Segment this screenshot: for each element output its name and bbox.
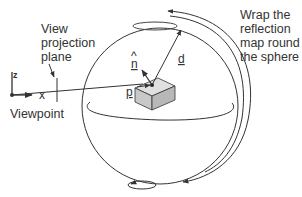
- x-axis-label: x: [39, 88, 45, 102]
- wrap-label-3: map round: [240, 36, 300, 50]
- viewpoint-label: Viewpoint: [10, 107, 65, 121]
- wrap-label-4: the sphere: [240, 50, 299, 64]
- view-ray: [12, 84, 143, 95]
- reflection-vector: [152, 30, 181, 85]
- direction-label: d: [178, 52, 185, 66]
- view-plane-pointer: [49, 64, 54, 77]
- wrap-label-1: Wrap the: [240, 8, 291, 22]
- view-plane-label-3: plane: [41, 50, 72, 64]
- top-pole-ring: [133, 22, 177, 30]
- diagram-canvas: z x ^ n d p View projection plane Viewpo…: [0, 0, 302, 197]
- point-label: p: [126, 85, 133, 99]
- wrap-label-2: reflection: [240, 22, 291, 36]
- view-plane-label-1: View: [41, 22, 69, 36]
- normal-label: n: [131, 57, 138, 71]
- z-axis-label: z: [13, 70, 18, 80]
- wrap-arrow: [168, 11, 251, 182]
- view-plane-label-2: projection: [41, 36, 95, 50]
- object-box: [135, 78, 175, 110]
